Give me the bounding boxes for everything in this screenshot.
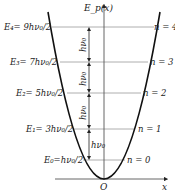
origin-label: O [100,182,108,192]
energy-label-2: E₂= 5hν₀/2 [15,88,63,98]
x-axis-label: x [162,182,167,192]
n-label-0: n = 0 [127,155,151,165]
energy-label-3: E₃= 7hν₀/2 [9,57,57,67]
spacing-label: hν₀ [78,71,88,86]
energy-label-0: E₀=hν₀/2 [43,155,83,165]
n-label-2: n = 2 [143,88,166,98]
harmonic-oscillator-diagram: hν₀ hν₀ hν₀ hν₀ E₄= 9hν₀/2 E₃= 7hν₀/2 E₂… [0,0,175,196]
spacing-label: hν₀ [78,105,88,120]
spacing-label: hν₀ [91,140,106,150]
n-label-4: n = 4 [154,22,175,32]
n-label-1: n = 1 [138,124,161,134]
n-label-3: n = 3 [150,57,173,67]
spacing-label: hν₀ [78,37,88,52]
y-axis-label: E_p(x) [83,3,113,14]
energy-label-1: E₁= 3hν₀/2 [25,124,73,134]
energy-label-4: E₄= 9hν₀/2 [3,22,51,32]
